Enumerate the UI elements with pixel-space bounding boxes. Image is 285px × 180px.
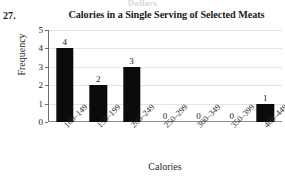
y-axis-tick-label: 2 — [39, 81, 44, 90]
y-axis-tick-label: 4 — [39, 44, 44, 53]
y-axis-tick-label: 0 — [39, 118, 44, 127]
y-axis-tick — [45, 67, 48, 68]
bar — [56, 48, 73, 122]
figure-27: Dollars 27. Calories in a Single Serving… — [0, 0, 285, 180]
x-axis-label-cell: 350–399 — [215, 124, 248, 158]
x-axis-label-cell: 200–249 — [115, 124, 148, 158]
chart-title: Calories in a Single Serving of Selected… — [50, 9, 283, 20]
bar-value-label: 4 — [62, 38, 67, 47]
x-axis-title: Calories — [48, 161, 282, 172]
bar-value-label: 1 — [263, 94, 268, 103]
question-number: 27. — [3, 10, 16, 21]
x-axis-label-cell: 250–299 — [148, 124, 181, 158]
y-axis-tick — [45, 48, 48, 49]
y-axis-tick-label: 5 — [39, 26, 44, 35]
x-axis-label-cell: 300–349 — [182, 124, 215, 158]
y-axis-title: Frequency — [16, 20, 27, 90]
y-axis-tick — [45, 30, 48, 31]
y-axis-tick — [45, 104, 48, 105]
bar-value-label: 3 — [129, 57, 134, 66]
y-axis-tick-label: 1 — [39, 99, 44, 108]
y-axis-tick — [45, 122, 48, 123]
x-axis-label-cell: 400–449 — [249, 124, 282, 158]
bleed-through-text: Dollars — [0, 0, 285, 6]
y-axis-tick-label: 3 — [39, 62, 44, 71]
x-axis-tick-labels: 100–149150–199200–249250–299300–349350–3… — [48, 124, 282, 158]
bar-value-label: 2 — [96, 75, 101, 84]
y-axis-tick — [45, 85, 48, 86]
x-axis-label-cell: 150–199 — [81, 124, 114, 158]
x-axis-label-cell: 100–149 — [48, 124, 81, 158]
